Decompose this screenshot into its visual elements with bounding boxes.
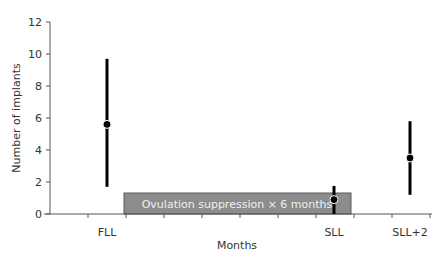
y-tick-label: 8: [35, 80, 42, 93]
data-points: [103, 59, 414, 214]
category-labels: FLLSLLSLL+2: [98, 226, 428, 239]
y-tick-label: 12: [28, 16, 42, 29]
y-axis-title: Number of implants: [10, 63, 23, 173]
x-axis: [44, 214, 432, 218]
x-category-label: SLL+2: [392, 226, 427, 239]
y-tick-label: 6: [35, 112, 42, 125]
chart: Ovulation suppression × 6 months 0246810…: [0, 0, 441, 265]
data-point: [330, 196, 338, 204]
data-point: [103, 120, 111, 128]
data-point: [406, 154, 414, 162]
y-tick-label: 4: [35, 144, 42, 157]
y-axis: 024681012: [28, 16, 50, 221]
y-tick-label: 0: [35, 208, 42, 221]
x-axis-title: Months: [217, 239, 257, 252]
ovulation-suppression-label: Ovulation suppression × 6 months: [142, 198, 333, 211]
x-category-label: FLL: [98, 226, 117, 239]
y-tick-label: 2: [35, 176, 42, 189]
x-category-label: SLL: [324, 226, 344, 239]
y-tick-label: 10: [28, 48, 42, 61]
